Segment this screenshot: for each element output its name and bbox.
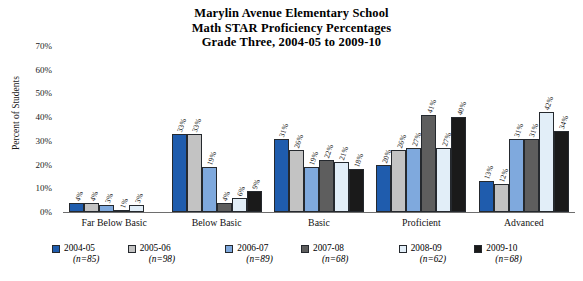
bar[interactable]: 19% (202, 167, 217, 212)
bar[interactable]: 22% (319, 160, 334, 212)
y-axis-tick-label: 70% (36, 42, 53, 51)
legend-sample-size: (n=62) (411, 254, 446, 265)
bar-group-bars: 33%33%19%4%6%9% (165, 46, 267, 212)
bar-slot: 26% (289, 46, 304, 212)
bar[interactable]: 26% (289, 150, 304, 212)
legend-item[interactable]: 2008-09(n=62) (399, 243, 471, 265)
bar[interactable]: 19% (304, 167, 319, 212)
legend-label: 2004-05(n=85) (64, 243, 99, 265)
bar[interactable]: 41% (421, 115, 436, 212)
bar-value-label: 3% (134, 192, 145, 204)
legend-swatch-icon (474, 245, 482, 253)
legend-item[interactable]: 2004-05(n=85) (52, 243, 124, 265)
chart-title-line-1: Marylin Avenue Elementary School (0, 6, 583, 21)
legend-swatch-icon (225, 245, 233, 253)
bar-group: 13%12%31%31%42%34%Advanced (473, 46, 575, 212)
x-axis-category-label: Advanced (473, 217, 575, 228)
bar[interactable]: 34% (554, 131, 569, 212)
legend-item[interactable]: 2009-10(n=68) (474, 243, 546, 265)
bar-slot: 9% (247, 46, 262, 212)
bar[interactable]: 9% (247, 191, 262, 212)
bar[interactable]: 20% (376, 165, 391, 212)
bar[interactable]: 27% (436, 148, 451, 212)
bar-value-label: 18% (354, 153, 366, 169)
legend-label: 2005-06(n=98) (140, 243, 175, 265)
bar[interactable]: 27% (406, 148, 421, 212)
bar-slot: 3% (99, 46, 114, 212)
legend-label: 2007-08(n=68) (313, 243, 348, 265)
bar[interactable]: 4% (217, 203, 232, 212)
bar-slot: 20% (376, 46, 391, 212)
bar[interactable]: 31% (524, 139, 539, 213)
legend-item[interactable]: 2006-07(n=89) (225, 243, 297, 265)
bar-slot: 13% (479, 46, 494, 212)
bar-value-label: 6% (236, 185, 247, 197)
bar-value-label: 34% (558, 115, 570, 131)
bar-group: 33%33%19%4%6%9%Below Basic (165, 46, 267, 212)
bar-group-bars: 13%12%31%31%42%34% (473, 46, 575, 212)
y-axis-tick-label: 50% (36, 89, 53, 98)
legend-swatch-icon (301, 245, 309, 253)
bar-slot: 34% (554, 46, 569, 212)
bar[interactable]: 18% (349, 169, 364, 212)
legend-sample-size: (n=68) (486, 254, 521, 265)
bar-group-bars: 20%26%27%41%27%40% (370, 46, 472, 212)
chart-title: Marylin Avenue Elementary School Math ST… (0, 6, 583, 50)
legend-label: 2008-09(n=62) (411, 243, 446, 265)
bar[interactable]: 3% (129, 205, 144, 212)
bar-slot: 41% (421, 46, 436, 212)
x-axis-category-label: Proficient (370, 217, 472, 228)
bar-group: 4%4%3%1%3%Far Below Basic (63, 46, 165, 212)
bar[interactable]: 33% (187, 134, 202, 212)
bar-slot: 6% (232, 46, 247, 212)
bar[interactable]: 4% (84, 203, 99, 212)
bar[interactable]: 42% (539, 112, 554, 212)
bar-group-bars: 4%4%3%1%3% (63, 46, 165, 212)
x-axis-category-label: Basic (268, 217, 370, 228)
bar-group-bars: 31%26%19%22%21%18% (268, 46, 370, 212)
bar[interactable]: 6% (232, 198, 247, 212)
legend-item[interactable]: 2005-06(n=98) (128, 243, 200, 265)
y-axis-tick-label: 10% (36, 184, 53, 193)
bar-value-label: 4% (221, 190, 232, 202)
legend-sample-size: (n=68) (313, 254, 348, 265)
bar-chart: Marylin Avenue Elementary School Math ST… (0, 0, 583, 281)
bar-value-label: 3% (104, 192, 115, 204)
bar-value-label: 4% (89, 190, 100, 202)
bar-slot: 31% (524, 46, 539, 212)
bar-value-label: 1% (119, 197, 130, 209)
chart-title-line-2: Math STAR Proficiency Percentages (0, 21, 583, 36)
bar[interactable]: 26% (391, 150, 406, 212)
bar-slot: 33% (187, 46, 202, 212)
bar-slot: 22% (319, 46, 334, 212)
bar[interactable]: 3% (99, 205, 114, 212)
legend-item[interactable]: 2007-08(n=68) (301, 243, 373, 265)
bar[interactable]: 31% (274, 139, 289, 213)
y-axis-title: Percent of Students (11, 43, 21, 183)
bar[interactable]: 31% (509, 139, 524, 213)
bar-slot: 4% (217, 46, 232, 212)
bar-slot: 19% (202, 46, 217, 212)
bar-slot: 31% (274, 46, 289, 212)
bar[interactable]: 40% (451, 117, 466, 212)
y-axis-tick-label: 20% (36, 160, 53, 169)
bar-value-label: 40% (456, 101, 468, 117)
legend-label: 2006-07(n=89) (237, 243, 272, 265)
y-axis-tick-label: 40% (36, 113, 53, 122)
bar-slot (144, 46, 159, 212)
bar-slot: 1% (114, 46, 129, 212)
legend-sample-size: (n=85) (64, 254, 99, 265)
legend-swatch-icon (52, 245, 60, 253)
y-axis-tick-label: 0% (40, 208, 52, 217)
bar[interactable]: 12% (494, 184, 509, 212)
bar-slot: 12% (494, 46, 509, 212)
x-axis-category-label: Far Below Basic (63, 217, 165, 228)
bar[interactable]: 4% (69, 203, 84, 212)
bar[interactable]: 21% (334, 162, 349, 212)
bar-slot: 42% (539, 46, 554, 212)
bar-value-label: 4% (74, 190, 85, 202)
bar-slot: 3% (129, 46, 144, 212)
bar[interactable]: 13% (479, 181, 494, 212)
bar[interactable]: 33% (172, 134, 187, 212)
bar-slot: 31% (509, 46, 524, 212)
